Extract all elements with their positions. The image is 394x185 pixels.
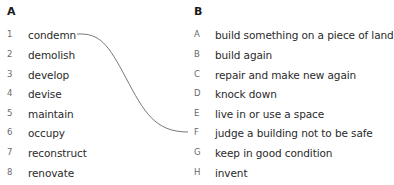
item-word: condemn xyxy=(28,29,76,41)
item-definition: live in or use a space xyxy=(215,108,324,120)
item-definition: keep in good condition xyxy=(215,147,332,159)
list-item: Bbuild again xyxy=(194,46,272,62)
item-definition: knock down xyxy=(215,88,277,100)
item-number: 5 xyxy=(7,105,28,121)
item-word: renovate xyxy=(28,167,74,179)
item-letter: G xyxy=(194,144,215,160)
item-word: occupy xyxy=(28,127,65,139)
item-letter: B xyxy=(194,46,215,62)
item-number: 4 xyxy=(7,85,28,101)
item-word: develop xyxy=(28,69,69,81)
item-definition: judge a building not to be safe xyxy=(215,127,373,139)
list-item: 7reconstruct xyxy=(7,144,87,160)
item-word: maintain xyxy=(28,108,74,120)
item-letter: A xyxy=(194,26,215,42)
item-letter: H xyxy=(194,164,215,180)
item-definition: build again xyxy=(215,49,272,61)
list-item: Crepair and make new again xyxy=(194,66,356,82)
list-item: 5maintain xyxy=(7,105,74,121)
list-item: Gkeep in good condition xyxy=(194,144,332,160)
item-number: 8 xyxy=(7,164,28,180)
item-letter: F xyxy=(194,124,215,140)
column-a-heading: A xyxy=(7,5,16,18)
list-item: Fjudge a building not to be safe xyxy=(194,124,373,140)
item-number: 1 xyxy=(7,26,28,42)
item-word: reconstruct xyxy=(28,147,87,159)
item-definition: invent xyxy=(215,167,247,179)
item-number: 2 xyxy=(7,46,28,62)
list-item: Hinvent xyxy=(194,164,247,180)
list-item: 1condemn xyxy=(7,26,76,42)
list-item: 2demolish xyxy=(7,46,75,62)
item-number: 7 xyxy=(7,144,28,160)
column-b-heading: B xyxy=(194,5,202,18)
item-letter: D xyxy=(194,85,215,101)
item-number: 6 xyxy=(7,124,28,140)
list-item: 8renovate xyxy=(7,164,74,180)
list-item: Dknock down xyxy=(194,85,277,101)
item-word: demolish xyxy=(28,49,75,61)
item-definition: build something on a piece of land xyxy=(215,29,394,41)
item-letter: C xyxy=(194,66,215,82)
list-item: Elive in or use a space xyxy=(194,105,324,121)
list-item: 3develop xyxy=(7,66,69,82)
list-item: 4devise xyxy=(7,85,62,101)
item-definition: repair and make new again xyxy=(215,69,356,81)
item-word: devise xyxy=(28,88,62,100)
item-letter: E xyxy=(194,105,215,121)
item-number: 3 xyxy=(7,66,28,82)
list-item: 6occupy xyxy=(7,124,65,140)
list-item: Abuild something on a piece of land xyxy=(194,26,394,42)
